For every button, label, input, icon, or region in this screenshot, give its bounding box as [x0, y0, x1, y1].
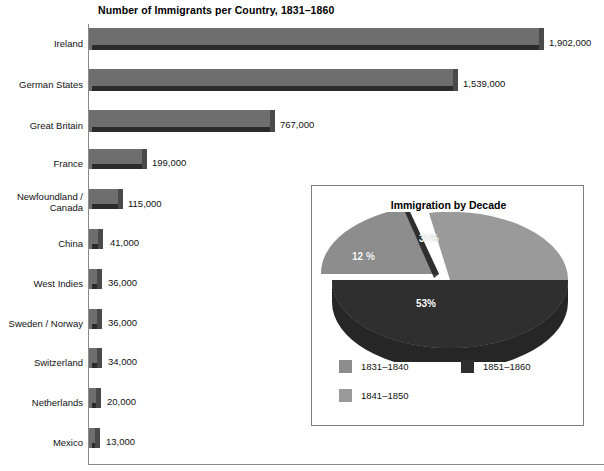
pie-pct-1851-1860: 53% [416, 298, 436, 309]
bar-ireland [89, 28, 544, 50]
bar-value-label: 767,000 [280, 119, 314, 130]
bar-category-label: Netherlands [0, 397, 83, 408]
bar-category-label: Switzerland [0, 357, 83, 368]
bar-category-label: China [0, 238, 83, 249]
pie-chart-graphic [312, 212, 585, 362]
bar-value-label: 20,000 [107, 396, 136, 407]
pie-slice-1841-1850 [429, 212, 568, 280]
pie-inset-panel: Immigration by Decade 12 % [311, 185, 584, 426]
bar-value-label: 36,000 [108, 317, 137, 328]
bar-netherlands [89, 388, 101, 408]
bar-value-label: 41,000 [110, 237, 139, 248]
pie-pct-1831-1840: 12 % [352, 251, 375, 262]
legend-label: 1851–1860 [483, 361, 531, 372]
bar-category-label: Sweden / Norway [0, 318, 83, 329]
bar-mexico [89, 428, 100, 448]
pie-pct-1841-1850: 35% [419, 233, 439, 244]
legend-swatch-icon [339, 360, 352, 373]
bar-value-label: 13,000 [106, 436, 135, 447]
page-title: Number of Immigrants per Country, 1831–1… [98, 4, 334, 16]
legend-swatch-icon [339, 389, 352, 402]
bar-value-label: 1,539,000 [463, 78, 505, 89]
pie-chart-title: Immigration by Decade [312, 199, 585, 211]
bar-newfoundland-canada [89, 189, 123, 209]
bar-category-label: Newfoundland / Canada [0, 191, 83, 213]
bar-category-label: Great Britain [0, 120, 83, 131]
legend-item-1851-1860[interactable]: 1851–1860 [461, 360, 571, 376]
bar-west-indies [89, 269, 102, 289]
legend-item-1831-1840[interactable]: 1831–1840 [339, 360, 449, 376]
bar-value-label: 115,000 [128, 198, 162, 209]
bar-france [89, 149, 147, 169]
legend-item-1841-1850[interactable]: 1841–1850 [339, 389, 449, 405]
bar-value-label: 1,902,000 [549, 37, 591, 48]
bar-sweden-norway [89, 309, 102, 329]
bar-category-label: West Indies [0, 278, 83, 289]
bar-switzerland [89, 348, 102, 368]
bar-value-label: 36,000 [108, 277, 137, 288]
bar-value-label: 34,000 [108, 356, 137, 367]
bar-great-britain [89, 110, 275, 132]
bar-category-label: Ireland [0, 38, 83, 49]
legend-label: 1831–1840 [361, 361, 409, 372]
bar-category-label: Mexico [0, 437, 83, 448]
bar-german-states [89, 69, 458, 91]
x-axis-baseline [88, 464, 604, 465]
legend-swatch-icon [461, 360, 474, 373]
bar-category-label: France [0, 158, 83, 169]
chart-page: Number of Immigrants per Country, 1831–1… [0, 0, 604, 471]
legend-label: 1841–1850 [361, 390, 409, 401]
bar-china [89, 229, 103, 249]
bar-value-label: 199,000 [152, 157, 186, 168]
bar-category-label: German States [0, 79, 83, 90]
